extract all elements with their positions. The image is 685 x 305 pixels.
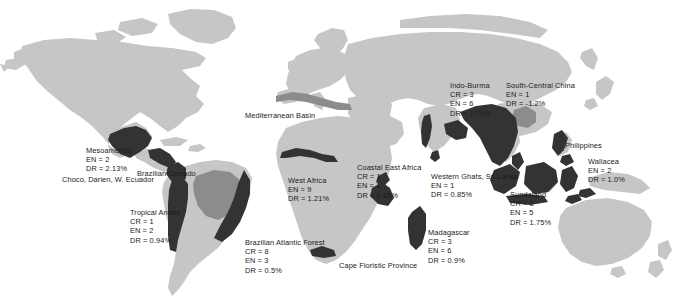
hotspot-label-philippines: Philippines bbox=[565, 141, 602, 150]
hotspot-stat: DR = 0.85% bbox=[431, 190, 518, 199]
hotspot-stat: DR = 0.5% bbox=[245, 266, 325, 275]
hotspot-stat: EN = 6 bbox=[450, 99, 491, 108]
hotspot-label-wallacea: WallaceaEN = 2DR = 1.0% bbox=[588, 157, 625, 185]
hotspot-name: Coastal East Africa bbox=[357, 163, 421, 172]
hotspot-stat: CR = 1 bbox=[357, 172, 421, 181]
hotspot-stat: EN = 6 bbox=[428, 246, 470, 255]
hotspot-label-west-africa: West AfricaEN = 9DR = 1.21% bbox=[288, 176, 329, 204]
hotspot-stat: DR = 0.94% bbox=[130, 236, 180, 245]
hotspot-stat: EN = 2 bbox=[86, 155, 131, 164]
hotspot-label-south-central-china: South-Central ChinaEN = 1DR = -1.2% bbox=[506, 81, 575, 109]
hotspot-stat: EN = 5 bbox=[510, 208, 551, 217]
hotspot-label-sundaland: SundalandCR = 3EN = 5DR = 1.75% bbox=[510, 190, 551, 227]
hotspot-label-cape-floristic-province: Cape Floristic Province bbox=[339, 261, 417, 270]
hotspot-stat: DR = -1.2% bbox=[506, 99, 575, 108]
hotspot-label-brazilian-cerrado: Brazilian Cerrado bbox=[137, 169, 196, 178]
hotspot-stat: EN = 1 bbox=[431, 181, 518, 190]
hotspot-label-mesoamerica: MesoamericaEN = 2DR = 2.13% bbox=[86, 146, 131, 174]
hotspot-stat: DR = 1.21% bbox=[288, 194, 329, 203]
hotspot-name: Western Ghats, Sri Lanka bbox=[431, 172, 518, 181]
hotspot-name: Madagascar bbox=[428, 228, 470, 237]
hotspot-name: Mediterranean Basin bbox=[245, 111, 315, 120]
hotspot-label-indo-burma: Indo-BurmaCR = 3EN = 6DR = 1.76% bbox=[450, 81, 491, 118]
hotspot-name: Brazilian Atlantic Forest bbox=[245, 238, 325, 247]
hotspot-name: Sundaland bbox=[510, 190, 551, 199]
hotspot-stat: DR = 1.0% bbox=[588, 175, 625, 184]
hotspot-name: Cape Floristic Province bbox=[339, 261, 417, 270]
hotspot-stat: CR = 3 bbox=[450, 90, 491, 99]
hotspot-stat: CR = 3 bbox=[510, 199, 551, 208]
hotspot-stat: DR = 1.75% bbox=[510, 218, 551, 227]
hotspot-name: Mesoamerica bbox=[86, 146, 131, 155]
hotspot-name: Indo-Burma bbox=[450, 81, 491, 90]
hotspot-name: Philippines bbox=[565, 141, 602, 150]
hotspot-label-brazilian-atlantic-forest: Brazilian Atlantic ForestCR = 8EN = 3DR … bbox=[245, 238, 325, 275]
hotspot-stat: CR = 3 bbox=[428, 237, 470, 246]
hotspot-stat: EN = 1 bbox=[506, 90, 575, 99]
hotspot-name: Tropical Andes bbox=[130, 208, 180, 217]
hotspot-stat: DR = 0.9% bbox=[428, 256, 470, 265]
hotspot-stat: DR = 0.65% bbox=[357, 191, 421, 200]
hotspot-stat: EN = 3 bbox=[245, 256, 325, 265]
hotspot-stat: EN = 1 bbox=[357, 181, 421, 190]
hotspot-stat: CR = 1 bbox=[130, 217, 180, 226]
hotspot-stat: EN = 2 bbox=[130, 226, 180, 235]
hotspot-label-western-ghats-sri-lanka: Western Ghats, Sri LankaEN = 1DR = 0.85% bbox=[431, 172, 518, 200]
hotspot-label-mediterranean-basin: Mediterranean Basin bbox=[245, 111, 315, 120]
hotspot-label-madagascar: MadagascarCR = 3EN = 6DR = 0.9% bbox=[428, 228, 470, 265]
hotspot-stat: DR = 1.76% bbox=[450, 109, 491, 118]
hotspot-stat: EN = 9 bbox=[288, 185, 329, 194]
hotspot-name: Wallacea bbox=[588, 157, 625, 166]
hotspot-stat: CR = 8 bbox=[245, 247, 325, 256]
hotspot-stat: EN = 2 bbox=[588, 166, 625, 175]
hotspot-label-coastal-east-africa: Coastal East AfricaCR = 1EN = 1DR = 0.65… bbox=[357, 163, 421, 200]
hotspot-stat: DR = 2.13% bbox=[86, 164, 131, 173]
world-biodiversity-hotspot-map: MesoamericaEN = 2DR = 2.13%Choco, Darien… bbox=[0, 0, 685, 305]
hotspot-name: Brazilian Cerrado bbox=[137, 169, 196, 178]
hotspot-name: South-Central China bbox=[506, 81, 575, 90]
hotspot-label-tropical-andes: Tropical AndesCR = 1EN = 2DR = 0.94% bbox=[130, 208, 180, 245]
hotspot-name: West Africa bbox=[288, 176, 329, 185]
